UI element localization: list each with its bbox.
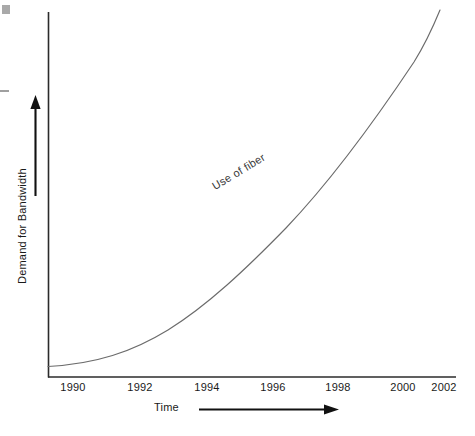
x-tick-label-1990: 1990	[60, 381, 85, 393]
chart-plot-area	[0, 0, 475, 436]
x-tick-label-1998: 1998	[325, 381, 350, 393]
x-tick-label-1996: 1996	[260, 381, 285, 393]
chart-figure: 1990 1992 1994 1996 1998 2000 2002 Deman…	[0, 0, 475, 436]
x-axis-title: Time	[154, 401, 179, 413]
x-tick-label-2002: 2002	[431, 381, 456, 393]
x-tick-label-1994: 1994	[194, 381, 219, 393]
data-series-use-of-fiber	[48, 10, 440, 367]
x-tick-label-2000: 2000	[390, 381, 415, 393]
y-axis-title: Demand for Bandwidth	[16, 168, 28, 284]
x-tick-label-1992: 1992	[127, 381, 152, 393]
arrow-up-icon	[30, 95, 40, 196]
arrow-right-icon	[199, 404, 339, 414]
